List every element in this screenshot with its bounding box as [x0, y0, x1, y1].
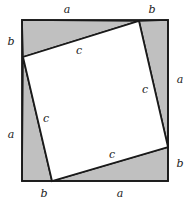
label-a-right: a: [177, 73, 184, 86]
pythagorean-diagram-figure: abbaabba cccc: [0, 0, 191, 204]
label-b-left-top: b: [7, 35, 14, 48]
label-b-right-bottom: b: [176, 157, 183, 170]
label-c-top: c: [76, 44, 82, 57]
label-b-bottom-left: b: [40, 187, 47, 200]
label-a-bottom: a: [117, 187, 124, 200]
label-a-top: a: [64, 3, 71, 16]
label-c-left: c: [43, 112, 49, 125]
label-c-bottom: c: [109, 148, 115, 161]
label-c-right: c: [142, 83, 148, 96]
label-b-top-right: b: [148, 3, 155, 16]
pythagorean-diagram-svg: abbaabba cccc: [0, 0, 191, 204]
label-a-left: a: [8, 128, 15, 141]
